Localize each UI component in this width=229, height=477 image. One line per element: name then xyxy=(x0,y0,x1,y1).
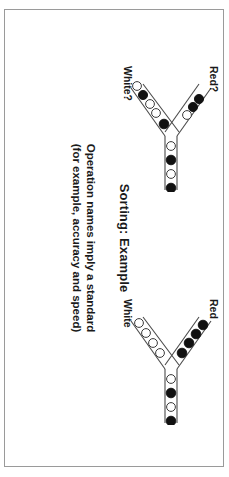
ball-white xyxy=(156,349,165,358)
ball-black xyxy=(194,94,203,103)
ball-black xyxy=(138,90,147,99)
branch-label-white: White xyxy=(122,299,134,328)
ball-white xyxy=(167,142,176,151)
slide-canvas: Red? White? xyxy=(4,9,224,467)
rail-lower-outer xyxy=(131,321,165,369)
ball-black xyxy=(166,416,176,425)
ball-white xyxy=(149,339,158,348)
ball-white xyxy=(167,403,176,412)
branch-label-red-question: Red? xyxy=(208,66,220,92)
rail-lower-inner xyxy=(143,317,179,365)
ball-white xyxy=(142,329,151,338)
sorting-diagram-unsorted: Red? White? xyxy=(123,66,219,192)
sorting-track-graphic-unsorted xyxy=(123,66,219,192)
rail-upper-outer xyxy=(177,88,211,136)
ball-black xyxy=(159,119,169,129)
ball-black xyxy=(166,183,176,192)
ball-black xyxy=(166,388,176,398)
body-text-block: Operation names imply a standard (for ex… xyxy=(70,9,98,467)
ball-white xyxy=(167,170,176,179)
sorting-track-graphic-sorted xyxy=(123,299,219,425)
ball-black xyxy=(191,329,201,339)
ball-black xyxy=(166,155,176,165)
branch-label-red: Red xyxy=(208,299,220,319)
ball-black xyxy=(188,102,197,111)
slide-frame: Red? White? xyxy=(4,9,224,467)
ball-black xyxy=(198,320,208,330)
ball-white xyxy=(167,375,176,384)
ball-white xyxy=(135,319,144,328)
sorting-diagram-sorted: Red White xyxy=(123,299,219,425)
ball-black xyxy=(177,348,187,358)
ball-white xyxy=(183,111,192,120)
body-text-line-1: Operation names imply a standard xyxy=(84,9,98,467)
ball-white xyxy=(146,100,155,109)
body-text-line-2: (for example, accuracy and speed) xyxy=(70,9,84,467)
ball-white xyxy=(152,109,161,118)
ball-black xyxy=(184,338,194,348)
